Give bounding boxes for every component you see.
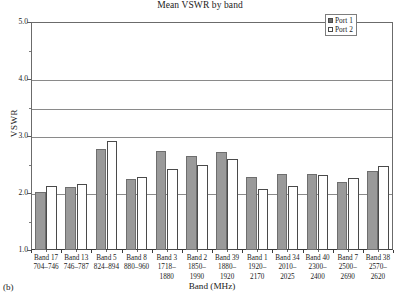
- bar-port-2-band-8: [137, 177, 148, 250]
- band-name: Band 5: [91, 254, 121, 263]
- x-tick-label: Band 342010– 2025: [272, 254, 302, 282]
- figure-container: Mean VSWR by band 1.02.03.04.05.0 VSWR B…: [0, 0, 400, 297]
- bar-port-1-band-8: [126, 179, 137, 250]
- bars-layer: [31, 22, 393, 250]
- x-tick-label: Band 13746–787: [61, 254, 91, 273]
- x-tick-minor: [318, 250, 319, 252]
- chart-title: Mean VSWR by band: [0, 0, 400, 10]
- bar-port-1-band-34: [277, 174, 288, 250]
- bar-port-1-band-13: [65, 187, 76, 250]
- x-tick-minor: [106, 250, 107, 252]
- x-tick-label: Band 31718– 1880: [152, 254, 182, 282]
- band-name: Band 2: [182, 254, 212, 263]
- band-name: Band 17: [31, 254, 61, 263]
- x-tick-minor: [197, 250, 198, 252]
- x-tick-label: Band 17704–746: [31, 254, 61, 273]
- bar-port-2-band-17: [46, 186, 57, 250]
- band-name: Band 3: [152, 254, 182, 263]
- band-name: Band 38: [363, 254, 393, 263]
- band-name: Band 13: [61, 254, 91, 263]
- legend-label: Port 2: [335, 25, 353, 34]
- legend-item: Port 2: [328, 25, 353, 34]
- bar-port-2-band-40: [318, 175, 329, 250]
- band-range: 746–787: [61, 263, 91, 272]
- band-name: Band 34: [272, 254, 302, 263]
- x-tick-mark: [363, 250, 364, 253]
- legend: Port 1Port 2: [325, 14, 357, 36]
- y-axis-label: VSWR: [9, 63, 19, 183]
- bar-port-1-band-5: [96, 149, 107, 250]
- legend-label: Port 1: [335, 16, 353, 25]
- x-tick-minor: [257, 250, 258, 252]
- x-tick-minor: [287, 250, 288, 252]
- y-tick-label: 5.0: [2, 17, 28, 26]
- legend-swatch-icon: [328, 27, 333, 32]
- x-tick-minor: [378, 250, 379, 252]
- x-tick-mark: [242, 250, 243, 253]
- band-range: 2010– 2025: [272, 263, 302, 282]
- x-tick-minor: [76, 250, 77, 252]
- bar-port-1-band-38: [367, 171, 378, 250]
- x-tick-label: Band 72500– 2690: [333, 254, 363, 282]
- bar-port-2-band-7: [348, 178, 359, 250]
- x-tick-mark: [272, 250, 273, 253]
- x-tick-minor: [137, 250, 138, 252]
- bar-port-2-band-13: [77, 184, 88, 250]
- x-tick-minor: [348, 250, 349, 252]
- figure-caption: (b): [3, 282, 14, 292]
- bar-port-2-band-39: [227, 159, 238, 250]
- x-tick-mark: [212, 250, 213, 253]
- bar-port-2-band-34: [288, 186, 299, 250]
- band-range: 1850– 1990: [182, 263, 212, 282]
- x-tick-label: Band 8880–960: [122, 254, 152, 273]
- bar-port-1-band-2: [186, 156, 197, 250]
- x-tick-mark: [333, 250, 334, 253]
- band-name: Band 1: [242, 254, 272, 263]
- bar-port-2-band-1: [258, 189, 269, 250]
- x-tick-mark: [393, 250, 394, 253]
- band-name: Band 7: [333, 254, 363, 263]
- x-tick-minor: [227, 250, 228, 252]
- y-tick-label: 2.0: [2, 188, 28, 197]
- bar-port-2-band-2: [197, 165, 208, 251]
- x-tick-mark: [303, 250, 304, 253]
- band-name: Band 39: [212, 254, 242, 263]
- bar-port-1-band-40: [307, 174, 318, 250]
- band-range: 2500– 2690: [333, 263, 363, 282]
- bar-port-2-band-5: [107, 141, 118, 250]
- legend-swatch-icon: [328, 18, 333, 23]
- bar-port-1-band-7: [337, 182, 348, 250]
- x-axis-label: Band (MHz): [31, 281, 393, 291]
- x-tick-label: Band 391880– 1920: [212, 254, 242, 282]
- bar-port-2-band-38: [378, 166, 389, 250]
- x-tick-mark: [61, 250, 62, 253]
- x-tick-mark: [31, 250, 32, 253]
- bar-port-1-band-3: [156, 151, 167, 250]
- band-range: 824–894: [91, 263, 121, 272]
- x-tick-label: Band 11920– 2170: [242, 254, 272, 282]
- x-tick-mark: [122, 250, 123, 253]
- band-range: 2570– 2620: [363, 263, 393, 282]
- x-tick-label: Band 402300– 2400: [303, 254, 333, 282]
- band-range: 1718– 1880: [152, 263, 182, 282]
- bar-port-1-band-1: [246, 177, 257, 250]
- legend-item: Port 1: [328, 16, 353, 25]
- x-tick-mark: [182, 250, 183, 253]
- band-range: 2300– 2400: [303, 263, 333, 282]
- x-tick-mark: [152, 250, 153, 253]
- x-tick-minor: [167, 250, 168, 252]
- band-range: 704–746: [31, 263, 61, 272]
- bar-port-1-band-39: [216, 152, 227, 250]
- band-range: 1920– 2170: [242, 263, 272, 282]
- band-range: 1880– 1920: [212, 263, 242, 282]
- bar-port-2-band-3: [167, 169, 178, 250]
- band-name: Band 8: [122, 254, 152, 263]
- bar-port-1-band-17: [35, 192, 46, 250]
- y-tick-label: 1.0: [2, 245, 28, 254]
- x-tick-label: Band 21850– 1990: [182, 254, 212, 282]
- x-tick-minor: [46, 250, 47, 252]
- x-tick-mark: [91, 250, 92, 253]
- band-range: 880–960: [122, 263, 152, 272]
- x-tick-label: Band 5824–894: [91, 254, 121, 273]
- x-tick-label: Band 382570– 2620: [363, 254, 393, 282]
